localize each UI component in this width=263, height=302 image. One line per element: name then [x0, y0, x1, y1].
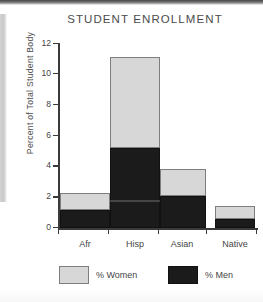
bar-native-women[interactable] — [215, 206, 255, 218]
x-tick-3 — [206, 228, 207, 234]
legend-swatch-men-icon — [168, 266, 198, 284]
bar-afr-women[interactable] — [60, 193, 110, 211]
y-tick-10 — [53, 73, 59, 74]
x-tick-1 — [108, 228, 109, 234]
legend-label-women: % Women — [96, 270, 137, 280]
bar-native-men[interactable] — [215, 219, 255, 228]
bar-hisp-women[interactable] — [110, 57, 160, 148]
x-tick-0 — [58, 228, 59, 234]
y-tick-label-4: 4 — [29, 161, 51, 170]
legend-item-women[interactable]: % Women — [59, 266, 137, 284]
bar-asian[interactable] — [160, 169, 206, 228]
bar-native[interactable] — [215, 206, 255, 228]
x-axis-label-native: Native — [210, 239, 260, 249]
y-tick-label-10: 10 — [29, 69, 51, 78]
bar-hisp[interactable] — [110, 57, 160, 228]
y-tick-6 — [53, 135, 59, 136]
x-axis-label-asian: Asian — [158, 239, 206, 249]
scan-artifact-bar-line — [110, 200, 160, 202]
y-tick-8 — [53, 104, 59, 105]
y-tick-label-12: 12 — [29, 39, 51, 48]
y-tick-2 — [53, 196, 59, 197]
bar-asian-women[interactable] — [160, 169, 206, 195]
x-tick-4 — [256, 228, 257, 234]
legend-item-men[interactable]: % Men — [168, 266, 233, 284]
x-axis-label-afr: Afr — [60, 239, 110, 249]
plot-area: 0 2 4 6 8 10 12 — [58, 43, 258, 228]
y-tick-label-2: 2 — [29, 192, 51, 201]
x-axis-label-hisp: Hisp — [110, 239, 160, 249]
bar-hisp-men[interactable] — [110, 148, 160, 228]
stacked-bar-chart: STUDENT ENROLLMENT Percent of Total Stud… — [0, 0, 263, 302]
y-tick-4 — [53, 165, 59, 166]
y-tick-label-0: 0 — [29, 223, 51, 232]
chart-legend: % Women % Men — [58, 266, 258, 292]
scan-artifact-bottom-haze — [0, 290, 263, 302]
y-tick-12 — [53, 43, 59, 44]
legend-swatch-women-icon — [59, 266, 89, 284]
y-tick-label-6: 6 — [29, 131, 51, 140]
y-tick-label-8: 8 — [29, 100, 51, 109]
bar-afr[interactable] — [60, 193, 110, 229]
chart-title: STUDENT ENROLLMENT — [50, 13, 240, 25]
bar-asian-men[interactable] — [160, 196, 206, 228]
legend-label-men: % Men — [205, 270, 233, 280]
bar-afr-men[interactable] — [60, 210, 110, 228]
x-tick-2 — [158, 228, 159, 234]
y-axis-title: Percent of Total Student Body — [25, 8, 35, 178]
